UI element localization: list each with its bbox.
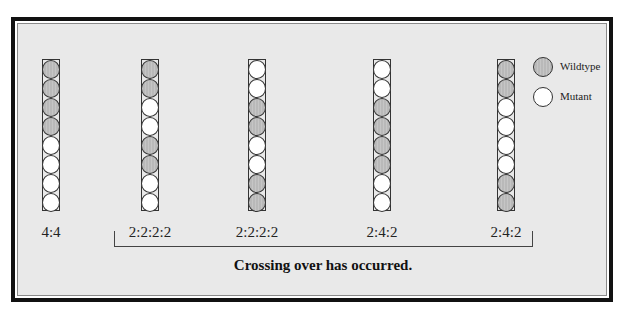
mutant-circle-icon [533, 87, 553, 107]
mutant-spore [497, 155, 515, 174]
mutant-spore [42, 155, 60, 174]
mutant-spore [141, 193, 159, 212]
mutant-spore [497, 136, 515, 155]
mutant-spore [373, 193, 391, 212]
ascus-5 [497, 59, 515, 211]
figure-panel [17, 23, 607, 296]
wildtype-spore [373, 98, 391, 117]
wildtype-spore [497, 174, 515, 193]
mutant-spore [42, 136, 60, 155]
wildtype-spore [42, 98, 60, 117]
wildtype-spore [141, 60, 159, 79]
wildtype-spore [42, 117, 60, 136]
wildtype-spore [497, 60, 515, 79]
mutant-spore [42, 174, 60, 193]
wildtype-spore [141, 155, 159, 174]
crossover-bracket [114, 231, 533, 247]
mutant-spore [497, 117, 515, 136]
mutant-spore [248, 136, 266, 155]
mutant-spore [497, 98, 515, 117]
mutant-spore [373, 79, 391, 98]
wildtype-spore [497, 193, 515, 212]
wildtype-spore [497, 79, 515, 98]
ascus-1-ratio: 4:4 [11, 224, 91, 241]
wildtype-circle-icon [533, 57, 553, 77]
mutant-spore [248, 155, 266, 174]
caption: Crossing over has occurred. [0, 257, 627, 274]
wildtype-spore [248, 193, 266, 212]
mutant-spore [248, 60, 266, 79]
wildtype-spore [141, 136, 159, 155]
wildtype-spore [248, 174, 266, 193]
ascus-3 [248, 59, 266, 211]
wildtype-spore [248, 98, 266, 117]
mutant-spore [141, 174, 159, 193]
mutant-spore [373, 174, 391, 193]
mutant-spore [141, 98, 159, 117]
legend-wildtype-label: Wildtype [560, 60, 601, 72]
ascus-4 [373, 59, 391, 211]
legend-mutant-label: Mutant [560, 90, 592, 102]
mutant-spore [248, 79, 266, 98]
wildtype-spore [373, 155, 391, 174]
wildtype-spore [141, 79, 159, 98]
wildtype-spore [373, 136, 391, 155]
mutant-spore [42, 193, 60, 212]
mutant-spore [373, 60, 391, 79]
wildtype-spore [373, 117, 391, 136]
mutant-spore [141, 117, 159, 136]
wildtype-spore [248, 117, 266, 136]
wildtype-spore [42, 79, 60, 98]
wildtype-spore [42, 60, 60, 79]
ascus-1 [42, 59, 60, 211]
ascus-2 [141, 59, 159, 211]
